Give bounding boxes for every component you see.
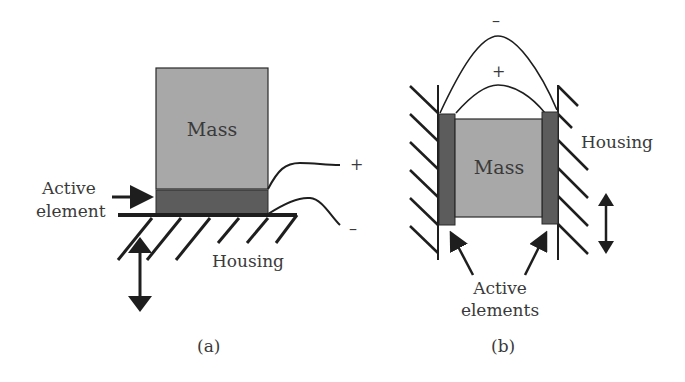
vibration-arrow-a [128,237,152,312]
active-element-label-line1: Active [41,178,96,198]
diagram-canvas: Mass Active element + – Housing [0,0,685,382]
wire-positive-a [268,163,340,189]
active-element-label-line2: element [36,201,106,221]
wire-negative-a [268,198,340,225]
caption-b: (b) [491,336,515,356]
caption-a: (a) [197,336,220,356]
active-element-a [156,190,268,214]
active-element-right-pointer [525,235,545,275]
vibration-arrow-b [598,193,614,254]
active-elements-label-line2: elements [461,300,539,320]
housing-label-b: Housing [581,132,653,152]
mass-label-b: Mass [474,156,524,178]
active-element-left [439,114,455,225]
active-elements-label-line1: Active [472,278,527,298]
wire-positive-b [456,85,545,113]
active-element-left-pointer [452,235,473,275]
panel-b: – + Mass Hou [410,11,653,356]
plus-terminal-a: + [350,155,363,174]
panel-a: Mass Active element + – Housing [36,68,363,356]
housing-label-a: Housing [212,251,284,271]
housing-hatch-right [558,86,588,254]
mass-label-a: Mass [187,118,237,140]
minus-terminal-b: – [492,11,500,30]
active-element-right [542,112,558,224]
minus-terminal-a: – [349,219,357,238]
housing-hatch-left [410,86,438,253]
plus-terminal-b: + [492,62,505,81]
